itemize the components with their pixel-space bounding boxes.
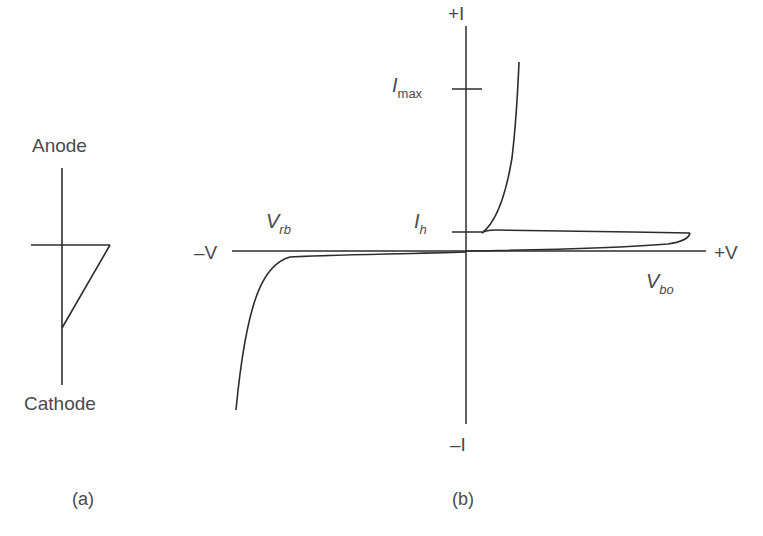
reverse-breakdown-branch (236, 252, 466, 410)
diode-triangle-hypotenuse (62, 245, 110, 328)
forward-conduction-branch (482, 62, 519, 233)
shockley-diode-symbol (31, 168, 110, 385)
forward-blocking-branch (466, 233, 690, 251)
i-h-label-sub: h (420, 222, 427, 237)
diode-characteristic-figure: Anode Cathode (a) +I –I +V –V (0, 0, 763, 536)
panel-a-group: Anode Cathode (a) (24, 135, 110, 509)
v-bo-label-sub: bo (659, 282, 673, 297)
figure-container: Anode Cathode (a) +I –I +V –V (0, 0, 763, 536)
panel-b-caption: (b) (452, 489, 474, 509)
anode-label: Anode (32, 135, 87, 156)
i-h-label: Ih (414, 210, 427, 237)
i-max-label: Imax (392, 74, 423, 101)
panel-b-group: +I –I +V –V Imax Ih Vrb Vbo (b) (194, 3, 738, 509)
positive-voltage-label: +V (714, 242, 738, 263)
negative-voltage-label: –V (194, 242, 218, 263)
positive-current-label: +I (448, 3, 464, 24)
panel-a-caption: (a) (72, 489, 94, 509)
v-rb-label-sub: rb (279, 222, 291, 237)
negative-current-label: –I (450, 434, 466, 455)
negative-resistance-snapback (482, 230, 690, 233)
v-bo-label: Vbo (646, 270, 674, 297)
i-max-label-sub: max (398, 86, 423, 101)
cathode-label: Cathode (24, 393, 96, 414)
v-rb-label: Vrb (266, 210, 291, 237)
